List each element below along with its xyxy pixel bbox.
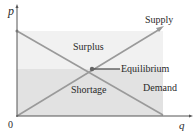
surplus-label: Surplus [73, 41, 104, 52]
equilibrium-label: Equilibrium [121, 63, 170, 74]
y-axis-arrow-icon [16, 4, 19, 8]
equilibrium-point [90, 67, 94, 71]
y-axis-label: p [7, 4, 14, 18]
x-axis-label: q [179, 119, 185, 131]
supply-demand-diagram: p 0 q Supply Demand Surplus Shortage Equ… [0, 0, 195, 131]
demand-label: Demand [143, 82, 177, 93]
shortage-label: Shortage [71, 84, 107, 95]
x-axis-arrow-icon [189, 115, 193, 118]
supply-label: Supply [145, 14, 173, 25]
origin-label: 0 [8, 119, 13, 130]
